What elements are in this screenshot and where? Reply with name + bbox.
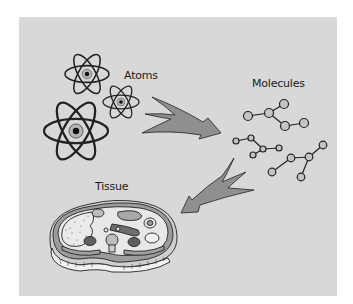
- atom-icon: [103, 83, 139, 121]
- atom-icon: [44, 97, 108, 165]
- tissue-cross-section-icon: [50, 200, 177, 272]
- atom-icon: [65, 51, 109, 97]
- molecule-icon: [244, 100, 309, 131]
- molecules-label: Molecules: [252, 77, 305, 90]
- atoms-label: Atoms: [124, 69, 158, 82]
- arrow-icon: [142, 97, 221, 139]
- tissue-label: Tissue: [95, 180, 128, 193]
- illustration: [0, 0, 353, 304]
- molecule-icon: [233, 135, 282, 158]
- arrow-icon: [181, 158, 254, 213]
